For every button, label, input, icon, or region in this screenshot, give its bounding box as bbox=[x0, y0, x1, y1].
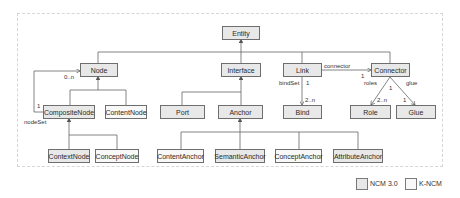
class-interface: Interface bbox=[221, 63, 261, 77]
label-glue: glue bbox=[406, 80, 417, 86]
label-role-multiplicity: 2..n bbox=[377, 97, 387, 103]
legend-label-kncm: K-NCM bbox=[419, 180, 442, 187]
label-connector-assoc: connector bbox=[324, 63, 350, 69]
label-roles: roles bbox=[364, 80, 377, 86]
legend-label-ncm30: NCM 3.0 bbox=[370, 180, 398, 187]
class-bind: Bind bbox=[283, 105, 322, 119]
class-connector: Connector bbox=[371, 63, 410, 77]
label-connector-one: 1 bbox=[389, 85, 392, 91]
label-bindset-one: 1 bbox=[306, 80, 309, 86]
class-attribute-anchor: AttributeAnchor bbox=[333, 149, 383, 163]
class-role: Role bbox=[350, 105, 391, 119]
label-node-multiplicity: 0..n bbox=[64, 74, 74, 80]
label-glue-multiplicity: 1 bbox=[403, 97, 406, 103]
class-concept-anchor: ConceptAnchor bbox=[275, 149, 322, 163]
class-context-node: ContextNode bbox=[48, 149, 90, 163]
class-content-anchor: ContentAnchor bbox=[157, 149, 204, 163]
label-nodeset: nodeSet bbox=[24, 119, 46, 125]
class-content-node: ContentNode bbox=[105, 105, 147, 119]
class-port: Port bbox=[160, 105, 205, 119]
legend-swatch-ncm30 bbox=[356, 178, 368, 190]
class-entity: Entity bbox=[222, 26, 260, 40]
class-glue: Glue bbox=[396, 105, 436, 119]
label-bindset: bindSet bbox=[279, 80, 299, 86]
legend-swatch-kncm bbox=[405, 178, 417, 190]
class-concept-node: ConceptNode bbox=[95, 149, 139, 163]
label-nodeset-multiplicity: 1 bbox=[37, 103, 40, 109]
class-link: Link bbox=[283, 63, 322, 77]
class-composite-node: CompositeNode bbox=[43, 105, 95, 119]
class-anchor: Anchor bbox=[218, 105, 263, 119]
label-connector-multiplicity: 1 bbox=[361, 73, 364, 79]
class-semantic-anchor: SemanticAnchor bbox=[215, 149, 265, 163]
class-node: Node bbox=[80, 63, 118, 77]
label-bind-multiplicity: 2..n bbox=[305, 97, 315, 103]
